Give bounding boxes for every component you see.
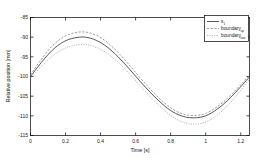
chart-legend[interactable]: s1boundaryupboundarylow [205,16,249,42]
y-tick-label: -110 [18,113,28,119]
y-axis-title: Relative position [mm] [5,49,11,103]
y-tick-label: -90 [21,34,28,40]
y-tick-label: -115 [18,132,28,138]
y-tick-label: -85 [21,14,28,20]
y-tick-label: -100 [18,73,28,79]
legend-label-subscript: low [241,36,246,40]
x-tick-label: 0 [29,138,32,144]
legend-label-subscript: 1 [223,22,225,26]
legend-label-subscript: up [241,29,245,33]
x-tick-label: 0.6 [132,138,139,144]
x-tick-label: 1 [204,138,207,144]
figure-canvas: 00.20.40.60.811.2 -85-90-95-100-105-110-… [0,0,259,160]
legend-label: boundary [221,26,242,31]
y-tick-label: -105 [18,93,28,99]
x-tick-label: 0.2 [62,138,69,144]
legend-label: boundary [221,33,242,38]
line-chart: 00.20.40.60.811.2 -85-90-95-100-105-110-… [0,0,259,160]
y-tick-label: -95 [21,54,28,60]
x-tick-label: 0.4 [97,138,104,144]
x-tick-label: 0.8 [167,138,174,144]
x-axis-title: Time [s] [131,147,150,153]
x-tick-label: 1.2 [237,138,244,144]
